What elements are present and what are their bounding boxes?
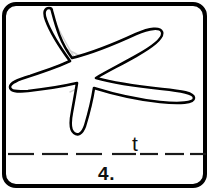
starfish-icon (4, 4, 209, 136)
starfish-illustration (4, 4, 209, 136)
item-number-label: 4. (0, 163, 213, 185)
written-letter: t (126, 131, 144, 156)
handwriting-line (6, 133, 207, 163)
dashed-writing-line (6, 133, 207, 163)
worksheet-card: t 4. (0, 0, 213, 196)
starfish-outline (10, 8, 194, 134)
